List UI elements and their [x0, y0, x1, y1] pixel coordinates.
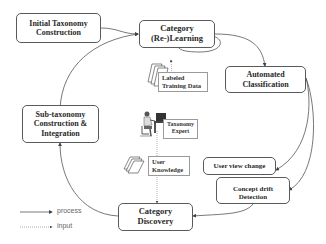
node-concept-drift-detection: Concept drift Detection [216, 177, 290, 204]
edge-initial-to-learning [101, 28, 138, 34]
edge-classification-to-drift [289, 78, 314, 190]
input-label: Taxonomy [167, 121, 194, 128]
edge-learning-to-classification [215, 34, 265, 66]
node-label: Construction [36, 28, 81, 37]
input-label: Knowledge [152, 166, 186, 174]
node-label: Classification [242, 80, 288, 89]
input-taxonomy-expert: Taxonomy Expert [163, 119, 198, 139]
node-label: Construction & [34, 119, 88, 128]
legend-input-label: input [57, 222, 72, 229]
edge-drift-to-discovery [193, 204, 253, 216]
node-label: Concept drift [233, 185, 273, 193]
node-category-discovery: Category Discovery [118, 203, 193, 231]
legend-process-label: process [57, 207, 82, 214]
node-user-view-change: User view change [203, 157, 276, 175]
node-label: Automated [246, 70, 284, 79]
document-stack-icon [124, 157, 144, 173]
node-label: User view change [214, 162, 266, 170]
node-label: Initial Taxonomy [29, 19, 87, 28]
node-initial-taxonomy-construction: Initial Taxonomy Construction [16, 13, 101, 43]
input-labeled-training-data: Labeled Training Data [158, 72, 208, 92]
node-label: Discovery [138, 217, 174, 227]
node-label: Detection [239, 193, 267, 201]
input-label: Expert [167, 128, 194, 135]
input-label: Labeled [162, 74, 204, 82]
edge-subtaxonomy-to-learning [60, 34, 138, 109]
node-subtaxonomy-construction-integration: Sub-taxonomy Construction & Integration [22, 105, 99, 143]
input-label: User [152, 158, 186, 166]
input-user-knowledge: User Knowledge [148, 156, 190, 176]
node-label: Integration [41, 129, 80, 138]
node-category-relearning: Category (Re-)Learning [139, 20, 215, 48]
node-label: Sub-taxonomy [36, 110, 86, 119]
edge-discovery-to-subtaxonomy [60, 143, 118, 216]
node-label: (Re-)Learning [151, 34, 203, 44]
node-automated-classification: Automated Classification [225, 66, 306, 93]
input-label: Training Data [162, 82, 204, 90]
